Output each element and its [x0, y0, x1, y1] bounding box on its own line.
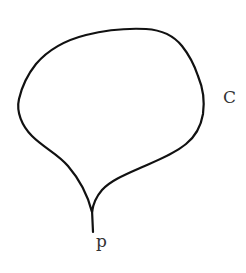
- cusp-point-label: p: [96, 233, 107, 250]
- curve-diagram: [0, 0, 246, 273]
- curve-c: [18, 29, 204, 212]
- curve-label: C: [223, 89, 236, 106]
- cusp-stem: [92, 210, 93, 232]
